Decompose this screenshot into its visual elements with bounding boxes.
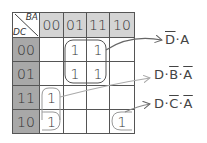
map-cell: 1 xyxy=(87,62,110,86)
map-cell xyxy=(87,86,110,110)
map-cell: 1 xyxy=(64,38,87,62)
column-header: 10 xyxy=(110,13,135,38)
column-header: 11 xyxy=(87,13,110,38)
term-label: D·B·A xyxy=(154,67,193,82)
map-cell: 1 xyxy=(110,110,135,134)
karnaugh-map: BA DC 00 01 11 10 00 1 1 01 1 1 11 1 10 … xyxy=(12,12,135,134)
row-variables-label: DC xyxy=(13,27,26,37)
row-header: 01 xyxy=(13,62,40,86)
map-cell xyxy=(87,110,110,134)
column-header: 00 xyxy=(40,13,64,38)
map-cell xyxy=(40,38,64,62)
term-label: D·C·A xyxy=(154,96,193,111)
row-header: 11 xyxy=(13,86,40,110)
row-header: 10 xyxy=(13,110,40,134)
map-cell xyxy=(110,62,135,86)
column-variables-label: BA xyxy=(26,12,38,22)
map-cell xyxy=(110,86,135,110)
map-cell xyxy=(64,86,87,110)
map-cell xyxy=(40,62,64,86)
term-label: D·A xyxy=(165,32,190,47)
map-cell xyxy=(110,38,135,62)
map-cell xyxy=(64,110,87,134)
row-header: 00 xyxy=(13,38,40,62)
map-cell: 1 xyxy=(64,62,87,86)
column-header: 01 xyxy=(64,13,87,38)
map-cell: 1 xyxy=(87,38,110,62)
corner-cell: BA DC xyxy=(13,13,40,38)
map-cell: 1 xyxy=(40,86,64,110)
map-cell: 1 xyxy=(40,110,64,134)
